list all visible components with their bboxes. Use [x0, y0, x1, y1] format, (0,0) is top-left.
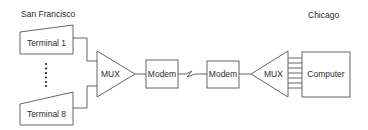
wire-terminal-1-to-mux: [73, 38, 97, 61]
computer: Computer: [302, 52, 350, 97]
mux-left: MUX: [97, 51, 135, 97]
computer-label: Computer: [307, 69, 344, 79]
terminal-8: Terminal 8: [20, 92, 73, 125]
mux-right-label: MUX: [264, 69, 283, 79]
network-diagram: San Francisco Chicago Terminal 1 Termina…: [0, 0, 368, 130]
modem-left: Modem: [146, 60, 178, 88]
location-label-san-francisco: San Francisco: [21, 9, 76, 19]
parallel-lines: [288, 58, 302, 88]
terminal-1: Terminal 1: [20, 25, 73, 54]
terminal-1-label: Terminal 1: [27, 38, 66, 48]
terminal-8-label: Terminal 8: [27, 109, 66, 119]
mux-left-label: MUX: [101, 69, 120, 79]
ellipsis-dots-icon: [45, 63, 47, 87]
telephone-line-zigzag-icon: [178, 71, 207, 77]
wire-terminal-8-to-mux: [73, 86, 97, 108]
mux-right: MUX: [251, 51, 288, 97]
location-label-chicago: Chicago: [308, 10, 339, 20]
modem-right: Modem: [207, 61, 239, 88]
modem-left-label: Modem: [148, 69, 176, 79]
modem-right-label: Modem: [209, 69, 237, 79]
